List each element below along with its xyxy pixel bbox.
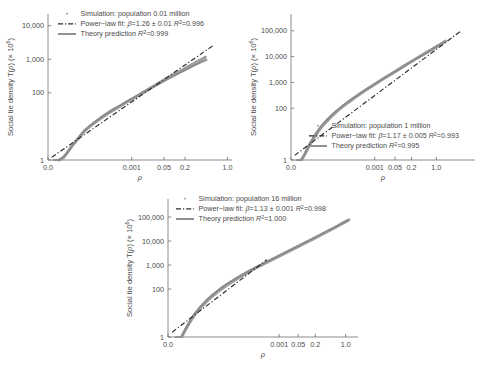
- legend-marker-simulation: [184, 198, 186, 200]
- y-tick-label: 1,000: [269, 78, 287, 87]
- legend-label: Theory prediction R2=1.000: [199, 214, 287, 223]
- x-tick-label: 1.0: [222, 163, 232, 172]
- simulation-floor-points: [53, 159, 59, 161]
- simulation-data-band: [182, 220, 349, 336]
- simulation-point: [300, 159, 302, 161]
- x-tick-label: 0.0: [43, 163, 53, 172]
- panel-a-population-0-01-million: 11001,00010,0000.00.0010.050.21.0ρSocial…: [0, 0, 243, 190]
- panel-c-population-16-million: 11001,00010,000100,0000.00.0010.050.21.0…: [118, 185, 370, 368]
- legend-marker-simulation: [66, 13, 68, 15]
- legend-label: Power−law fit: β=1.26 ± 0.01 R2=0.996: [81, 19, 204, 28]
- x-axis-title: ρ: [137, 173, 143, 182]
- power-law-fit-line: [52, 45, 214, 157]
- legend-label: Power−law fit: β=1.13 ± 0.001 R2=0.998: [199, 204, 326, 213]
- x-tick-label: 0.2: [407, 163, 417, 172]
- y-tick-label: 100,000: [261, 26, 287, 35]
- x-tick-label: 0.001: [270, 340, 288, 349]
- theory-prediction-line: [58, 60, 206, 160]
- simulation-floor-points: [296, 159, 302, 161]
- y-axis-title-text: Social tie density T(ρ) (× 106): [5, 37, 15, 136]
- y-axis-title-text: Social tie density T(ρ) (× 106): [124, 218, 134, 317]
- x-tick-label: 1.0: [341, 340, 351, 349]
- legend-label: Theory prediction R2=0.999: [81, 29, 169, 38]
- x-tick-label: 0.2: [310, 340, 320, 349]
- y-tick-label: 100,000: [138, 213, 164, 222]
- legend-label: Simulation: population 16 million: [199, 194, 302, 203]
- legend-label: Theory prediction R2=0.995: [332, 141, 420, 150]
- legend-marker-simulation: [317, 125, 319, 127]
- y-tick-label: 100: [275, 104, 287, 113]
- y-tick-label: 1,000: [146, 261, 164, 270]
- legend-label: Simulation: population 0.01 million: [81, 9, 190, 18]
- x-tick-label: 1.0: [431, 163, 441, 172]
- y-tick-label: 100: [32, 88, 44, 97]
- x-tick-label: 0.05: [157, 163, 171, 172]
- panel-b-population-1-million: 11001,00010,000100,0000.00.0010.050.21.0…: [243, 0, 485, 190]
- y-axis-title: Social tie density T(ρ) (× 106): [124, 218, 134, 317]
- x-tick-label: 0.05: [291, 340, 305, 349]
- simulation-floor-points: [175, 336, 183, 338]
- x-tick-label: 0.0: [286, 163, 296, 172]
- legend-label: Simulation: population 1 million: [332, 121, 431, 130]
- y-axis-title: Social tie density T(ρ) (× 106): [5, 37, 15, 136]
- y-axis-title-text: Social tie density T(ρ) (× 106): [248, 37, 258, 136]
- x-axis-title: ρ: [260, 350, 266, 359]
- simulation-data-band: [59, 57, 205, 160]
- simulation-point: [181, 336, 183, 338]
- theory-prediction-line: [182, 221, 348, 337]
- x-tick-label: 0.05: [388, 163, 402, 172]
- y-tick-label: 100: [152, 285, 164, 294]
- legend-label: Power−law fit: β=1.17 ± 0.005 R2=0.993: [332, 131, 459, 140]
- y-tick-label: 10,000: [265, 52, 287, 61]
- x-axis-title: ρ: [380, 173, 386, 182]
- y-axis-title: Social tie density T(ρ) (× 106): [248, 37, 258, 136]
- y-tick-label: 1,000: [26, 55, 44, 64]
- y-tick-label: 10,000: [142, 237, 164, 246]
- x-tick-label: 0.001: [123, 163, 141, 172]
- x-tick-label: 0.2: [180, 163, 190, 172]
- panel-c-plot: 11001,00010,000100,0000.00.0010.050.21.0…: [118, 185, 370, 368]
- x-tick-label: 0.001: [366, 163, 384, 172]
- simulation-point: [57, 159, 59, 161]
- y-tick-label: 10,000: [22, 21, 44, 30]
- x-tick-label: 0.0: [163, 340, 173, 349]
- panel-a-plot: 11001,00010,0000.00.0010.050.21.0ρSocial…: [0, 0, 243, 190]
- panel-b-plot: 11001,00010,000100,0000.00.0010.050.21.0…: [243, 0, 485, 190]
